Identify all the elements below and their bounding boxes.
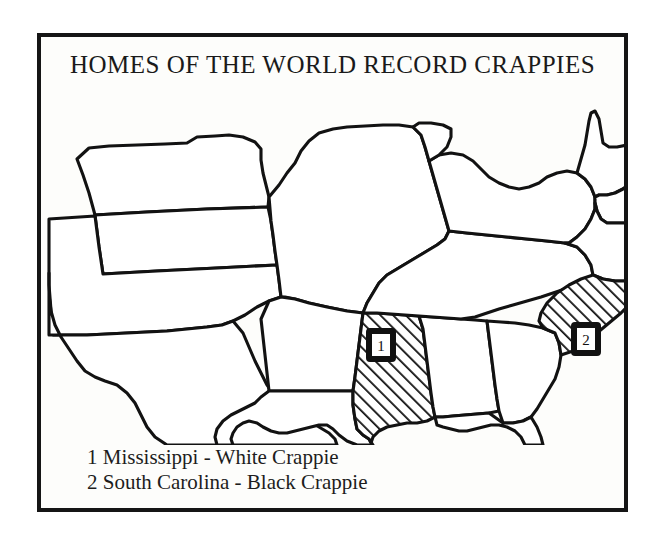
state-florida <box>435 413 543 445</box>
state-kentucky <box>429 153 595 243</box>
map-marker-1[interactable]: 1 <box>369 331 393 359</box>
map-marker-2[interactable]: 2 <box>574 325 598 353</box>
state-georgia <box>487 321 561 423</box>
marker-1-label: 1 <box>377 338 385 354</box>
figure-title: HOMES OF THE WORLD RECORD CRAPPIES <box>41 51 624 79</box>
legend-entry-1: 1 Mississippi - White Crappie <box>87 445 368 470</box>
state-nebraska <box>77 135 269 215</box>
us-southeast-map: 1 2 <box>47 85 624 445</box>
legend-entry-2: 2 South Carolina - Black Crappie <box>87 470 368 495</box>
state-kansas <box>95 207 277 274</box>
map-container: 1 2 <box>47 85 624 445</box>
state-arkansas <box>261 297 363 391</box>
map-legend: 1 Mississippi - White Crappie 2 South Ca… <box>87 445 368 495</box>
figure-container: HOMES OF THE WORLD RECORD CRAPPIES <box>0 0 666 542</box>
figure-frame: HOMES OF THE WORLD RECORD CRAPPIES <box>37 33 628 512</box>
marker-2-label: 2 <box>582 332 590 348</box>
